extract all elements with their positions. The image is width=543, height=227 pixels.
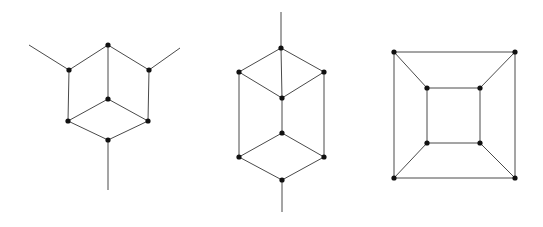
graph-edge [108, 45, 149, 70]
graph-node [512, 49, 517, 54]
graph-edge [108, 99, 148, 121]
graph-node [105, 96, 110, 101]
graph-node [321, 154, 326, 159]
panels-root [29, 12, 518, 212]
graph-edge [281, 48, 324, 72]
graph-node [391, 175, 396, 180]
graph-edge [69, 45, 108, 70]
graph-edge [282, 157, 324, 180]
graph-edge [239, 48, 281, 72]
graph-edge [480, 143, 515, 178]
graph-edge [480, 52, 515, 88]
graph-node [105, 137, 110, 142]
graph-pendant-edge [29, 45, 69, 70]
graph-node [477, 85, 482, 90]
graph-node [512, 175, 517, 180]
graph-node [66, 67, 71, 72]
figure-canvas [0, 0, 543, 227]
graph-node [105, 42, 110, 47]
middle-graph [236, 12, 326, 212]
graph-edge [281, 48, 282, 98]
graph-edge [239, 157, 282, 180]
graph-node [145, 118, 150, 123]
graph-node [65, 118, 70, 123]
graph-node [279, 130, 284, 135]
graph-node [477, 140, 482, 145]
left-graph-edges [29, 45, 180, 190]
graph-figure-svg [0, 0, 543, 227]
graph-edge [282, 72, 324, 98]
graph-node [278, 45, 283, 50]
graph-edge [239, 72, 282, 98]
graph-node [279, 177, 284, 182]
right-graph [391, 49, 517, 180]
graph-edge [68, 121, 108, 140]
graph-node [236, 69, 241, 74]
graph-node [236, 154, 241, 159]
graph-edge [108, 121, 148, 140]
graph-edge [68, 99, 108, 121]
graph-node [279, 95, 284, 100]
graph-edge [68, 70, 69, 121]
graph-node [391, 49, 396, 54]
graph-pendant-edge [149, 48, 180, 70]
graph-edge [394, 143, 427, 178]
right-graph-edges [394, 52, 515, 178]
graph-node [424, 140, 429, 145]
left-graph [29, 42, 180, 190]
graph-edge [239, 133, 282, 157]
graph-node [321, 69, 326, 74]
graph-edge [148, 70, 149, 121]
graph-edge [394, 52, 427, 88]
graph-node [424, 85, 429, 90]
graph-edge [282, 133, 324, 157]
graph-node [146, 67, 151, 72]
